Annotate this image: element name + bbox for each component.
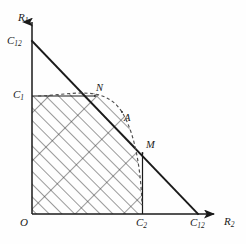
x-tick-label-c12: C12 (190, 217, 205, 228)
y-tick-label-c1: C1 (13, 89, 24, 100)
x-axis-label: R2 (224, 216, 234, 227)
y-tick-label-c12: C12 (7, 35, 22, 46)
economics-budget-constraint-figure: R1 R2 C12 C1 O C2 C12 N A M (0, 0, 246, 244)
point-label-n: N (96, 83, 103, 94)
y-axis-label: R1 (18, 12, 28, 23)
point-A (121, 111, 123, 113)
origin-label: O (20, 217, 28, 228)
figure-canvas (0, 0, 246, 244)
point-label-a: A (124, 113, 130, 124)
point-N (94, 95, 96, 97)
point-M (142, 152, 144, 154)
x-tick-label-c2: C2 (136, 217, 147, 228)
feasible-region-hatching (28, 76, 150, 222)
point-label-m: M (146, 140, 155, 151)
